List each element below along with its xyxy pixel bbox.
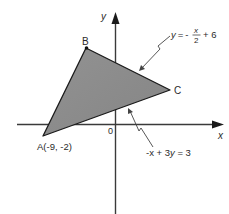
eq-bc-sign: -: [185, 29, 188, 40]
vertex-label-c: C: [174, 85, 181, 96]
callout-bc: [139, 36, 170, 71]
eq-bc-denominator: 2: [194, 36, 199, 45]
y-axis-arrow-icon: [112, 12, 120, 24]
eq-bc-numerator: x: [193, 26, 199, 35]
svg-text:y=-: y=-: [170, 29, 188, 40]
callout-ac: [128, 108, 153, 147]
y-axis-label: y: [100, 11, 107, 22]
coordinate-diagram: y x 0 B C A(-9, -2) y=- x 2 + 6 -x + 3y …: [0, 0, 229, 214]
y-axis: [112, 12, 120, 214]
origin-label: 0: [108, 126, 113, 136]
triangle-abc: [43, 48, 170, 136]
eq-ac-post: = 3: [175, 147, 191, 158]
equation-bc: y=- x 2 + 6: [170, 26, 216, 45]
eq-bc-rhs: + 6: [203, 29, 216, 40]
equation-ac: -x + 3y = 3: [146, 147, 191, 158]
x-axis-label: x: [217, 130, 224, 141]
eq-bc-equals: =: [178, 29, 184, 40]
vertex-label-a: A(-9, -2): [37, 141, 72, 152]
x-axis-arrow-icon: [212, 121, 224, 129]
eq-bc-lhs-var: y: [170, 29, 177, 40]
eq-ac-pre: -x + 3: [146, 147, 170, 158]
vertex-label-b: B: [82, 36, 89, 47]
